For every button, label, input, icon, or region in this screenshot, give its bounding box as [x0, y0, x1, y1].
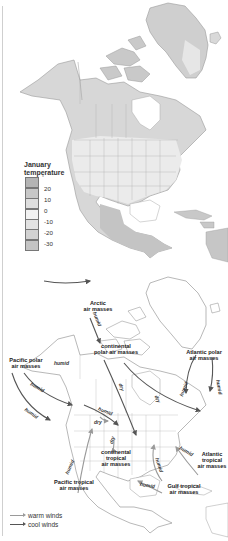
- label-gulf-tropical-air-masses: Gulf tropical air masses: [163, 483, 205, 495]
- legend-title: January temperature: [24, 161, 64, 176]
- label-arctic-air-masses: Arctic air masses: [78, 300, 118, 312]
- temperature-legend: ° 20 10 0 -10 -20 -30: [25, 178, 39, 251]
- wind-label-humid: humid: [54, 360, 69, 366]
- legend-tick: 20: [44, 185, 51, 192]
- label-continental-tropical-air-masses: continental tropical air masses: [96, 449, 136, 467]
- legend-swatch: [25, 229, 39, 240]
- label-pacific-tropical-air-masses: Pacific tropical air masses: [50, 479, 98, 491]
- cool-wind-arrow-icon: [10, 524, 24, 525]
- label-atlantic-polar-air-masses: Atlantic polar air masses: [180, 349, 228, 361]
- legend-tick: -20: [44, 229, 53, 236]
- legend-tick: 10: [44, 196, 51, 203]
- legend-tick: 0: [44, 207, 47, 214]
- warm-wind-arrow-icon: [10, 515, 24, 516]
- label-pacific-polar-air-masses: Pacific polar air masses: [4, 357, 48, 369]
- legend-tick: -10: [44, 218, 53, 225]
- label-continental-polar-air-masses: continental polar air masses: [86, 343, 146, 355]
- key-cool-winds: cool winds: [10, 521, 58, 528]
- key-warm-winds: warm winds: [10, 512, 62, 519]
- label-atlantic-tropical-air-masses: Atlantic tropical air masses: [196, 451, 228, 469]
- legend-swatch: [25, 177, 39, 188]
- legend-swatch: [25, 219, 39, 230]
- legend-swatch: [25, 188, 39, 199]
- legend-swatch: [25, 209, 39, 220]
- degree-symbol: °: [42, 174, 44, 180]
- legend-swatch: [25, 240, 39, 251]
- air-masses-map: [0, 275, 228, 541]
- legend-swatch: [25, 198, 39, 209]
- legend-tick: -30: [44, 240, 53, 247]
- wind-label-dry: dry: [94, 419, 102, 425]
